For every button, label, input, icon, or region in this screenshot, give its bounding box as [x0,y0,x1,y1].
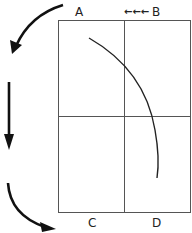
label-c: C [88,216,96,230]
diagram-canvas: A ←←← B C D [0,0,192,233]
label-d: D [152,216,161,230]
arrow-down-icon [4,82,14,150]
label-b: B [152,5,160,19]
label-a: A [75,5,84,19]
path-arc [89,38,158,178]
diagram-svg: A ←←← B C D [0,0,192,233]
left-arrows-icon: ←←← [124,6,149,17]
curved-arrow-top-left-icon [10,5,63,54]
curved-arrow-bottom-left-icon [8,183,56,232]
